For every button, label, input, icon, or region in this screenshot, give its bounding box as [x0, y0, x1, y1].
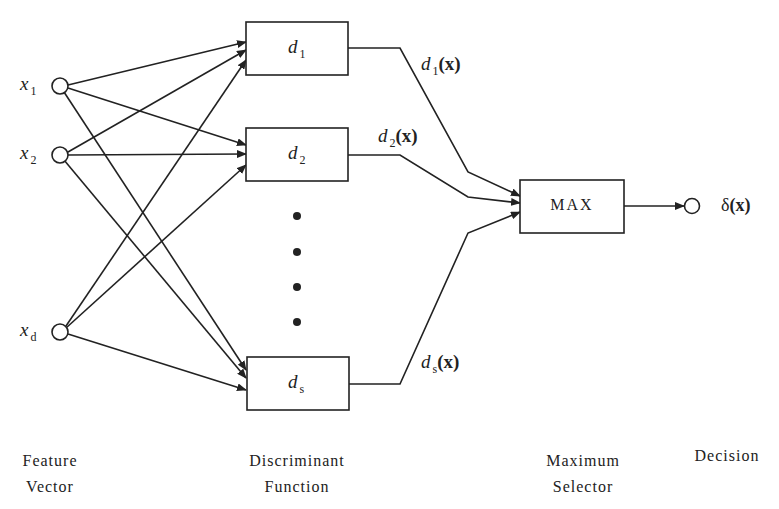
output-label-d1x: d1(x)	[421, 53, 461, 75]
edge-xd-d2	[66, 165, 246, 328]
input-label-xd: xd	[20, 319, 36, 341]
output-label-d2x: d2(x)	[378, 125, 418, 147]
input-label-x1: x1	[20, 73, 36, 95]
max-selector-label: MAX	[520, 196, 624, 214]
discriminant-label-d2: d2	[288, 142, 306, 164]
edge-x2-ds	[64, 160, 246, 378]
edge-x1-d1	[68, 42, 246, 85]
caption-maximum-selector: Maximum Selector	[528, 448, 638, 500]
edge-d2-max	[348, 155, 520, 203]
edge-xd-ds	[68, 334, 246, 390]
edge-x2-d2	[68, 154, 246, 155]
ellipsis-dots	[293, 212, 301, 326]
input-node-x1	[52, 78, 68, 94]
discriminant-label-d1: d1	[288, 36, 306, 58]
edge-xd-d1	[66, 60, 246, 326]
output-node	[685, 199, 700, 214]
input-label-x2: x2	[20, 142, 36, 164]
input-node-xd	[52, 324, 68, 340]
caption-decision: Decision	[682, 443, 772, 469]
decision-output-label: δ(x)	[721, 195, 750, 216]
discriminant-label-ds: ds	[288, 371, 304, 393]
diagram-canvas	[0, 0, 779, 509]
caption-discriminant-function: Discriminant Function	[232, 448, 362, 500]
input-node-x2	[52, 147, 68, 163]
edge-x1-ds	[64, 92, 246, 370]
output-label-dsx: ds(x)	[421, 351, 459, 373]
caption-feature-vector: Feature Vector	[10, 448, 90, 500]
